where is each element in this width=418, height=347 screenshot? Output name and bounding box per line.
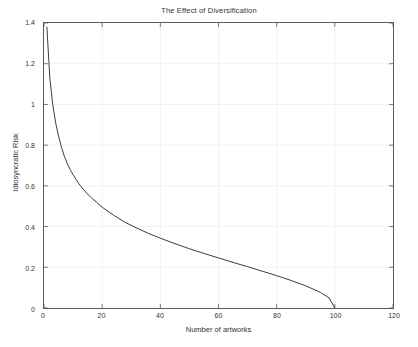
y-tick-label: 1 xyxy=(31,101,39,108)
y-tick-label: 0.2 xyxy=(25,265,39,272)
y-tick-label: 1.2 xyxy=(25,60,39,67)
y-tick-label: 0.6 xyxy=(25,183,39,190)
x-axis-tick-labels: 020406080100120 xyxy=(43,312,394,324)
chart-title: The Effect of Diversification xyxy=(0,6,418,15)
chart-figure: The Effect of Diversification 00.20.40.6… xyxy=(0,0,418,347)
x-tick-label: 80 xyxy=(273,312,281,319)
x-tick-label: 0 xyxy=(41,312,45,319)
x-axis-title: Number of artworks xyxy=(43,325,394,334)
y-tick-label: 0.8 xyxy=(25,142,39,149)
y-tick-label: 0 xyxy=(31,306,39,313)
x-tick-label: 100 xyxy=(330,312,342,319)
y-tick-label: 0.4 xyxy=(25,224,39,231)
x-tick-label: 40 xyxy=(156,312,164,319)
x-tick-label: 120 xyxy=(388,312,400,319)
x-tick-label: 60 xyxy=(215,312,223,319)
data-series-line xyxy=(44,23,393,308)
y-axis-tick-labels: 00.20.40.60.811.21.4 xyxy=(0,22,39,309)
plot-area xyxy=(43,22,394,309)
x-tick-label: 20 xyxy=(98,312,106,319)
y-tick-label: 1.4 xyxy=(25,19,39,26)
y-axis-title: Idiosyncratic Risk xyxy=(11,115,20,211)
